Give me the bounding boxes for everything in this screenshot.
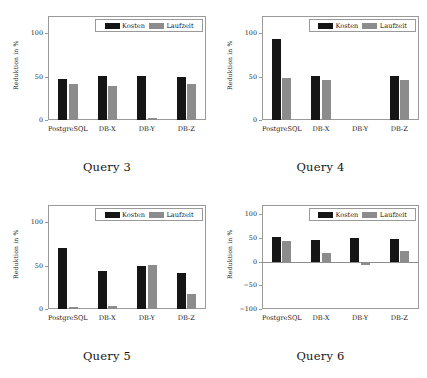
y-axis-title: Reduktion in % <box>226 230 233 279</box>
y-axis-tick-mark <box>259 285 262 286</box>
bar-laufzeit <box>322 80 331 120</box>
x-axis-tick-label: DB-Z <box>167 125 207 133</box>
legend-item-kosten: Kosten <box>105 22 145 30</box>
y-axis-tick-label: 50 <box>18 262 43 270</box>
y-axis-tick-label: 0 <box>232 116 257 124</box>
bar-kosten <box>58 248 67 309</box>
bar-kosten <box>58 79 67 120</box>
x-axis-tick-label: DB-Y <box>341 125 380 133</box>
y-axis-tick-label: −100 <box>232 305 257 313</box>
y-axis-tick-mark <box>259 214 262 215</box>
chart-panel-query-4: 050100Reduktion in %PostgreSQLDB-XDB-YDB… <box>214 0 427 189</box>
chart-panel-query-3: 050100Reduktion in %PostgreSQLDB-XDB-YDB… <box>0 0 214 189</box>
legend-swatch-kosten <box>318 23 333 29</box>
y-axis-tick-mark <box>45 222 48 223</box>
bar-laufzeit <box>400 80 409 120</box>
legend-label-laufzeit: Laufzeit <box>166 22 193 30</box>
bar-laufzeit <box>282 241 291 261</box>
legend-swatch-kosten <box>105 23 120 29</box>
x-axis-tick-label: PostgreSQL <box>48 125 88 133</box>
chart-legend: KostenLaufzeit <box>309 19 416 32</box>
legend-swatch-laufzeit <box>149 23 164 29</box>
legend-item-kosten: Kosten <box>318 211 358 219</box>
bar-kosten <box>311 240 320 262</box>
chart-caption-query-5: Query 5 <box>0 349 214 363</box>
chart-legend: KostenLaufzeit <box>309 208 416 221</box>
figure-grid: 050100Reduktion in %PostgreSQLDB-XDB-YDB… <box>0 0 427 378</box>
x-axis-tick-label: DB-Z <box>380 125 419 133</box>
y-axis-tick-mark <box>45 120 48 121</box>
y-axis-tick-mark <box>259 77 262 78</box>
y-axis-tick-label: 0 <box>232 258 257 266</box>
y-axis-tick-label: −50 <box>232 281 257 289</box>
chart-caption-query-4: Query 4 <box>214 160 427 174</box>
bar-laufzeit <box>108 306 117 309</box>
y-axis-tick-label: 50 <box>18 73 43 81</box>
chart-panel-query-6: −100−50050100Reduktion in %PostgreSQLDB-… <box>214 189 427 378</box>
legend-label-laufzeit: Laufzeit <box>166 211 193 219</box>
x-axis-tick-label: DB-X <box>88 314 128 322</box>
y-axis-tick-label: 100 <box>18 218 43 226</box>
x-axis-tick-label: DB-Y <box>127 125 167 133</box>
chart-area-query-6: −100−50050100Reduktion in %PostgreSQLDB-… <box>214 189 427 349</box>
legend-item-kosten: Kosten <box>318 22 358 30</box>
y-axis-title: Reduktion in % <box>12 230 19 279</box>
legend-item-laufzeit: Laufzeit <box>149 22 194 30</box>
chart-legend: KostenLaufzeit <box>95 208 202 221</box>
bar-laufzeit <box>69 307 78 309</box>
zero-baseline <box>262 262 419 263</box>
bar-laufzeit <box>148 265 157 309</box>
x-axis-tick-label: DB-Y <box>341 314 380 322</box>
y-axis-tick-label: 100 <box>18 29 43 37</box>
legend-item-kosten: Kosten <box>105 211 145 219</box>
legend-label-kosten: Kosten <box>335 22 358 30</box>
legend-swatch-laufzeit <box>362 23 377 29</box>
bar-laufzeit <box>69 84 78 120</box>
legend-item-laufzeit: Laufzeit <box>362 22 407 30</box>
bar-laufzeit <box>148 118 157 120</box>
x-axis-tick-label: DB-X <box>301 125 340 133</box>
bar-kosten <box>350 238 359 262</box>
y-axis-title: Reduktion in % <box>12 41 19 90</box>
chart-caption-query-3: Query 3 <box>0 160 214 174</box>
y-axis-tick-mark <box>45 33 48 34</box>
bar-laufzeit <box>108 86 117 120</box>
bar-kosten <box>390 239 399 262</box>
legend-label-kosten: Kosten <box>335 211 358 219</box>
legend-label-kosten: Kosten <box>122 211 145 219</box>
chart-area-query-4: 050100Reduktion in %PostgreSQLDB-XDB-YDB… <box>214 0 427 160</box>
x-axis-tick-label: DB-Z <box>167 314 207 322</box>
y-axis-tick-label: 100 <box>232 210 257 218</box>
x-axis-tick-label: DB-Y <box>127 314 167 322</box>
x-axis-tick-label: PostgreSQL <box>48 314 88 322</box>
bar-kosten <box>272 39 281 120</box>
x-axis-tick-label: PostgreSQL <box>262 314 301 322</box>
bar-kosten <box>98 271 107 309</box>
x-axis-tick-label: PostgreSQL <box>262 125 301 133</box>
y-axis-tick-label: 0 <box>18 116 43 124</box>
y-axis-tick-label: 50 <box>232 234 257 242</box>
y-axis-tick-mark <box>45 266 48 267</box>
chart-area-query-3: 050100Reduktion in %PostgreSQLDB-XDB-YDB… <box>0 0 214 160</box>
legend-label-laufzeit: Laufzeit <box>380 22 407 30</box>
y-axis-tick-mark <box>45 77 48 78</box>
bar-kosten <box>98 76 107 120</box>
bar-laufzeit <box>322 253 331 262</box>
y-axis-tick-mark <box>259 309 262 310</box>
bar-kosten <box>177 273 186 309</box>
y-axis-tick-mark <box>259 238 262 239</box>
legend-item-laufzeit: Laufzeit <box>149 211 194 219</box>
y-axis-title: Reduktion in % <box>226 41 233 90</box>
bar-kosten <box>137 266 146 309</box>
bar-laufzeit <box>361 262 370 265</box>
legend-item-laufzeit: Laufzeit <box>362 211 407 219</box>
y-axis-tick-label: 0 <box>18 305 43 313</box>
bar-laufzeit <box>187 294 196 309</box>
x-axis-tick-label: DB-Z <box>380 314 419 322</box>
chart-caption-query-6: Query 6 <box>214 349 427 363</box>
bar-laufzeit <box>282 78 291 120</box>
y-axis-tick-label: 100 <box>232 29 257 37</box>
chart-panel-query-5: 050100Reduktion in %PostgreSQLDB-XDB-YDB… <box>0 189 214 378</box>
y-axis-tick-label: 50 <box>232 73 257 81</box>
chart-legend: KostenLaufzeit <box>95 19 202 32</box>
